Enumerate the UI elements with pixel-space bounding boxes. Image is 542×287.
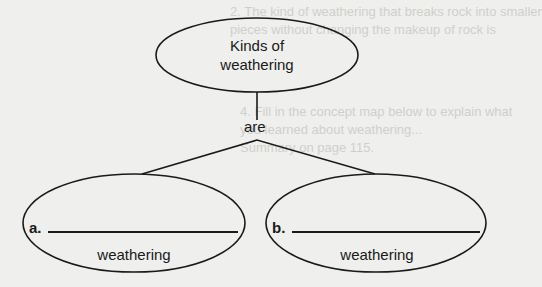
- root-node-line-1: Kinds of: [177, 36, 337, 55]
- child-b-blank[interactable]: [292, 231, 480, 233]
- branch-lines: [142, 140, 375, 174]
- child-a-suffix: weathering: [84, 245, 184, 264]
- root-node: Kinds of weathering: [177, 36, 337, 74]
- connector-label: are: [244, 118, 266, 135]
- child-a-blank[interactable]: [48, 231, 238, 233]
- child-b-label: b.: [272, 219, 285, 236]
- root-node-line-2: weathering: [177, 55, 337, 74]
- child-a-label: a.: [29, 219, 42, 236]
- child-b-suffix: weathering: [327, 245, 427, 264]
